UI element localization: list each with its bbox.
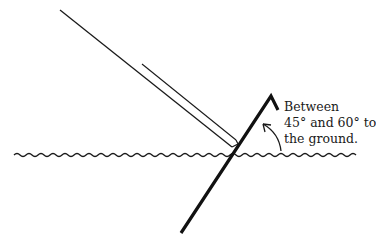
guy-line-inner (142, 64, 236, 140)
caption-line-2: 45° and 60° to (284, 115, 376, 131)
caption-line-1: Between (284, 99, 376, 115)
stake (181, 96, 278, 233)
guy-line-outer (60, 10, 232, 147)
ground-line (14, 154, 356, 157)
angle-caption: Between 45° and 60° to the ground. (284, 99, 376, 147)
angle-arrow-curve (263, 124, 281, 151)
caption-line-3: the ground. (284, 131, 376, 147)
